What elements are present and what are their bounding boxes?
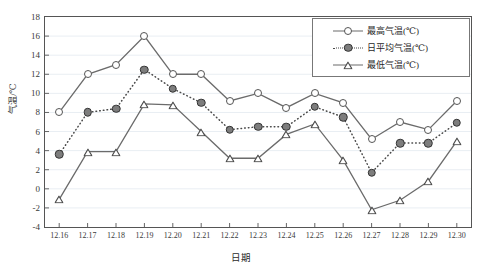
- legend-item-2[interactable]: 最低气温(℃): [315, 56, 467, 73]
- x-axis-tick-labels: 12.1612.1712.1812.1912.2012.2112.2212.23…: [44, 231, 472, 245]
- data-point-marker: [339, 157, 348, 164]
- data-point-marker: [197, 70, 205, 78]
- data-point-marker: [55, 196, 64, 203]
- data-point-marker: [367, 168, 376, 177]
- chart-legend: 最高气温(℃)日平均气温(℃)最低气温(℃): [312, 18, 470, 77]
- legend-label: 最低气温(℃): [367, 58, 419, 71]
- data-point-marker: [112, 148, 121, 155]
- data-point-marker: [368, 135, 376, 143]
- data-point-marker: [226, 97, 234, 105]
- x-tick-label: 12.23: [249, 231, 267, 240]
- data-point-marker: [112, 104, 121, 113]
- data-point-marker: [254, 123, 263, 132]
- x-tick-label: 12.26: [334, 231, 352, 240]
- data-point-marker: [84, 70, 92, 78]
- data-point-marker: [282, 104, 290, 112]
- data-point-marker: [197, 128, 206, 135]
- x-tick-label: 12.16: [50, 231, 68, 240]
- y-tick-label: 8: [36, 107, 41, 117]
- y-tick-label: -2: [33, 203, 41, 213]
- data-point-marker: [311, 102, 320, 111]
- legend-label: 日平均气温(℃): [367, 41, 428, 54]
- x-tick-label: 12.18: [107, 231, 125, 240]
- y-tick-label: 12: [31, 69, 40, 79]
- data-point-marker: [83, 108, 92, 117]
- data-point-marker: [339, 99, 347, 107]
- data-point-marker: [367, 206, 376, 213]
- data-point-marker: [424, 178, 433, 185]
- data-point-marker: [396, 197, 405, 204]
- legend-item-0[interactable]: 最高气温(℃): [315, 22, 467, 39]
- data-point-marker: [254, 89, 262, 97]
- legend-label: 最高气温(℃): [367, 24, 419, 37]
- y-tick-label: 18: [31, 12, 40, 22]
- data-point-marker: [83, 148, 92, 155]
- data-point-marker: [310, 120, 319, 127]
- y-tick-label: 10: [31, 88, 40, 98]
- data-point-marker: [424, 139, 433, 148]
- data-point-marker: [453, 97, 461, 105]
- y-tick-label: -4: [33, 222, 41, 232]
- data-point-marker: [339, 113, 348, 122]
- data-point-marker: [396, 118, 404, 126]
- x-tick-label: 12.25: [306, 231, 324, 240]
- x-tick-label: 12.24: [277, 231, 295, 240]
- y-tick-label: 4: [36, 146, 41, 156]
- data-point-marker: [396, 139, 405, 148]
- data-point-marker: [424, 126, 432, 134]
- data-point-marker: [225, 125, 234, 134]
- data-point-marker: [168, 101, 177, 108]
- legend-marker-icon: [333, 26, 363, 36]
- data-point-marker: [169, 84, 178, 93]
- data-point-marker: [55, 150, 64, 159]
- data-point-marker: [453, 119, 462, 128]
- x-axis-title: 日期: [0, 250, 482, 264]
- temperature-line-chart: 181614121086420-2-4 气温/℃ 12.1612.1712.18…: [0, 0, 482, 276]
- legend-marker-icon: [333, 43, 363, 53]
- x-tick-label: 12.30: [448, 231, 466, 240]
- data-point-marker: [140, 32, 148, 40]
- x-tick-label: 12.20: [164, 231, 182, 240]
- data-point-marker: [282, 123, 291, 132]
- legend-marker-icon: [333, 60, 363, 70]
- data-point-marker: [225, 155, 234, 162]
- x-tick-label: 12.28: [391, 231, 409, 240]
- y-tick-label: 14: [31, 50, 40, 60]
- legend-item-1[interactable]: 日平均气温(℃): [315, 39, 467, 56]
- data-point-marker: [197, 99, 206, 108]
- y-axis-title: 气温/℃: [6, 69, 19, 129]
- y-tick-label: 2: [36, 165, 41, 175]
- data-point-marker: [112, 61, 120, 69]
- data-point-marker: [140, 65, 149, 74]
- data-point-marker: [55, 108, 63, 116]
- data-point-marker: [169, 70, 177, 78]
- y-tick-label: 6: [36, 127, 41, 137]
- data-point-marker: [282, 131, 291, 138]
- x-tick-label: 12.17: [79, 231, 97, 240]
- x-tick-label: 12.19: [135, 231, 153, 240]
- data-point-marker: [140, 100, 149, 107]
- data-point-marker: [452, 138, 461, 145]
- x-tick-label: 12.29: [419, 231, 437, 240]
- y-tick-label: 0: [36, 184, 41, 194]
- data-point-marker: [254, 155, 263, 162]
- x-tick-label: 12.27: [363, 231, 381, 240]
- y-tick-label: 16: [31, 31, 40, 41]
- x-tick-label: 12.22: [221, 231, 239, 240]
- x-tick-label: 12.21: [192, 231, 210, 240]
- data-point-marker: [311, 89, 319, 97]
